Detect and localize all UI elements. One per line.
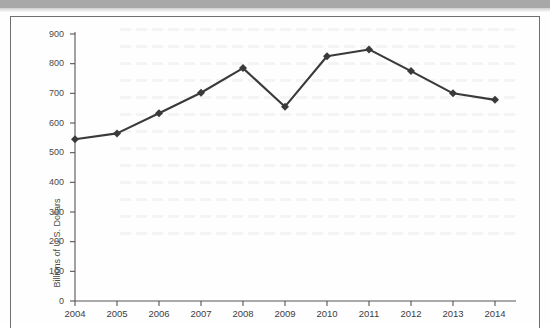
x-axis-tick-label: 2013 — [433, 308, 473, 319]
data-point-marker — [491, 96, 499, 104]
y-axis-tick-label: 0 — [28, 296, 64, 306]
data-point-marker — [365, 45, 373, 53]
y-axis-tick-label: 300 — [28, 207, 64, 217]
x-axis-tick-label: 2012 — [391, 308, 431, 319]
x-axis-tick-label: 2011 — [349, 308, 389, 319]
data-point-marker — [449, 89, 457, 97]
y-axis-tick-label: 800 — [28, 58, 64, 68]
data-point-marker — [407, 67, 415, 75]
y-axis-tick-label: 900 — [28, 29, 64, 39]
x-axis-tick-label: 2010 — [307, 308, 347, 319]
data-point-marker — [113, 129, 121, 137]
x-axis-tick-label: 2006 — [139, 308, 179, 319]
y-axis-tick-label: 700 — [28, 88, 64, 98]
data-series-line — [75, 49, 495, 139]
x-axis-tick-label: 2014 — [475, 308, 515, 319]
x-axis-tick-label: 2007 — [181, 308, 221, 319]
x-axis-tick-label: 2005 — [97, 308, 137, 319]
data-point-marker — [155, 109, 163, 117]
y-axis-tick-label: 500 — [28, 147, 64, 157]
y-axis-ticks — [70, 34, 75, 301]
x-axis-tick-label: 2004 — [55, 308, 95, 319]
x-axis-tick-label: 2009 — [265, 308, 305, 319]
x-axis-tick-label: 2008 — [223, 308, 263, 319]
data-point-markers — [71, 45, 499, 143]
y-axis-tick-label: 100 — [28, 266, 64, 276]
x-axis-ticks — [75, 301, 495, 306]
y-axis-tick-label: 600 — [28, 118, 64, 128]
y-axis-tick-label: 200 — [28, 236, 64, 246]
y-axis-tick-label: 400 — [28, 177, 64, 187]
data-point-marker — [71, 135, 79, 143]
